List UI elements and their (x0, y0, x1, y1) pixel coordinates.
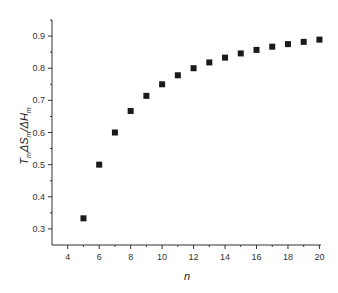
data-point-square (301, 39, 307, 45)
data-point-square (269, 44, 275, 50)
data-points (80, 37, 322, 222)
y-tick-label: 0.6 (32, 128, 45, 138)
data-point-square (175, 72, 181, 78)
data-point-square (159, 81, 165, 87)
x-tick-label: 12 (189, 252, 199, 262)
scatter-chart: 468101214161820 0.30.40.50.60.70.80.9 n … (0, 0, 338, 293)
x-tick-label: 18 (283, 252, 293, 262)
data-point-square (112, 130, 118, 136)
svg-text:TmΔSm/ΔHm: TmΔSm/ΔHm (18, 107, 32, 165)
data-point-square (80, 215, 86, 221)
y-tick-label: 0.8 (32, 63, 45, 73)
x-tick-label: 20 (314, 252, 324, 262)
data-point-square (191, 65, 197, 71)
x-axis-title: n (184, 270, 190, 282)
y-tick-label: 0.5 (32, 160, 45, 170)
data-point-square (206, 59, 212, 65)
y-tick-label: 0.7 (32, 95, 45, 105)
data-point-square (285, 41, 291, 47)
y-tick-label: 0.3 (32, 224, 45, 234)
data-point-square (96, 162, 102, 168)
data-point-square (316, 37, 322, 43)
data-point-square (143, 93, 149, 99)
x-axis-ticks: 468101214161820 (65, 245, 324, 262)
x-tick-label: 6 (97, 252, 102, 262)
y-tick-label: 0.9 (32, 31, 45, 41)
y-axis-title: TmΔSm/ΔHm (18, 107, 32, 165)
data-point-square (254, 47, 260, 53)
data-point-square (238, 50, 244, 56)
axes (52, 20, 321, 245)
x-tick-label: 8 (128, 252, 133, 262)
x-tick-label: 16 (251, 252, 261, 262)
y-tick-label: 0.4 (32, 192, 45, 202)
y-axis-ticks: 0.30.40.50.60.70.80.9 (32, 20, 52, 234)
x-tick-label: 4 (65, 252, 70, 262)
x-tick-label: 10 (157, 252, 167, 262)
data-point-square (128, 108, 134, 114)
x-tick-label: 14 (220, 252, 230, 262)
data-point-square (222, 55, 228, 61)
